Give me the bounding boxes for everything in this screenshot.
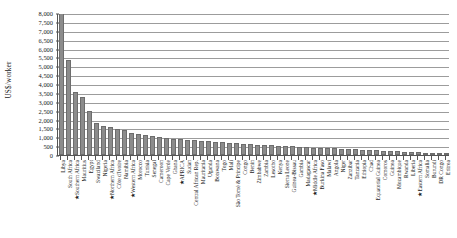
bar [437,153,441,155]
bar-slot [198,14,205,155]
bar [332,148,336,155]
bar-slot [114,14,121,155]
x-axis-label-slot: Benin [246,160,253,238]
bar [164,138,168,155]
bar [178,139,182,155]
x-axis-label-slot: Egypt [85,160,92,238]
y-axis-tick-label: 2,500 [39,108,53,114]
bar-slot [359,14,366,155]
bar [115,129,119,155]
bar [213,142,217,155]
bar-slot [275,14,282,155]
x-axis-label-slot: Mauritania [197,160,204,238]
x-axis-label-slot: Côte d'Ivoire [113,160,120,238]
x-axis-label-slot: Guinea [386,160,393,238]
bar-slot [387,14,394,155]
bar [346,149,350,155]
bar [444,153,448,155]
bar-slot [163,14,170,155]
x-axis-label-slot: ★Middle Africa [309,160,316,238]
bar [402,152,406,155]
bar [157,137,161,155]
x-axis-label-slot: Chad [365,160,372,238]
bar-slot [303,14,310,155]
bar-slot [317,14,324,155]
bar-slot [247,14,254,155]
bar-slot [100,14,107,155]
x-axis-label-slot: ★Western Africa [127,160,134,238]
y-axis-tick-label: 2,000 [39,117,53,123]
x-axis-label-slot: Niger [337,160,344,238]
y-axis-tick-label: 4,000 [39,82,53,88]
bar-series [58,14,449,155]
y-axis-tick-label: 4,500 [39,73,53,79]
bar-chart: US$/worker 8,0007,5007,0006,5006,0005,50… [0,0,457,238]
bar-slot [177,14,184,155]
bar [367,150,371,155]
x-axis-label-slot: Equatorial Guinea [372,160,379,238]
bar [185,140,189,155]
y-axis-tick-label: 1,500 [39,126,53,132]
x-axis-tick-labels: LibyaSouth Africa★Southern AfricaMauriti… [57,160,449,238]
bar-slot [86,14,93,155]
y-axis-tick-labels: 8,0007,5007,0006,5006,0005,5005,0004,500… [16,0,56,160]
bar [122,130,126,155]
bar [430,153,434,155]
bar [108,127,112,155]
x-axis-label-slot: Ghana [169,160,176,238]
bar [248,144,252,155]
bar-slot [65,14,72,155]
bar-slot [282,14,289,155]
bar-slot [289,14,296,155]
bar [255,145,259,155]
x-axis-label-slot: Malawi [323,160,330,238]
x-axis-label-slot: ★Northern Africa [106,160,113,238]
bar-slot [149,14,156,155]
bar-slot [268,14,275,155]
x-axis-label-slot: Eritrea [442,160,449,238]
x-axis-label-slot: Uganda [204,160,211,238]
x-axis-label-slot: Senegal [148,160,155,238]
bar [94,123,98,155]
bar-slot [212,14,219,155]
bar-slot [156,14,163,155]
bar [199,141,203,155]
x-axis-label-slot: Mozambique [393,160,400,238]
bar-slot [380,14,387,155]
bar [304,147,308,155]
y-axis-title: US$/worker [2,0,16,160]
x-axis-label-slot: Mauritius [78,160,85,238]
x-axis-label-slot: Namibia [120,160,127,238]
x-axis-label-slot: DR Congo [435,160,442,238]
bar-slot [184,14,191,155]
bar-slot [352,14,359,155]
bar [381,151,385,155]
bar-slot [366,14,373,155]
bar [136,134,140,155]
bar-slot [373,14,380,155]
bar-slot [72,14,79,155]
x-axis-label-slot: Tanzania [351,160,358,238]
bar-slot [205,14,212,155]
bar-slot [107,14,114,155]
x-axis-label-slot: Guinea-Bissau [288,160,295,238]
bar-slot [58,14,65,155]
bar [220,142,224,155]
bar [325,148,329,155]
y-axis-tick-label: 7,500 [39,20,53,26]
x-axis-label-slot: ★Eastern Africa [414,160,421,238]
x-axis-label-slot: Mali [225,160,232,238]
bar-slot [261,14,268,155]
bar [290,146,294,155]
bar [73,92,77,155]
bar [374,150,378,155]
bar [241,144,245,155]
x-axis-label-slot: Cape Verde [162,160,169,238]
bar-slot [429,14,436,155]
x-axis-label-slot: Angola [330,160,337,238]
x-axis-label-slot: ★Southern Africa [71,160,78,238]
bar-slot [296,14,303,155]
y-axis-tick-label: 6,000 [39,46,53,52]
bar [311,148,315,155]
bar-slot [121,14,128,155]
